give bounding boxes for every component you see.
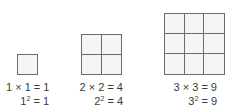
square-label-1: 12 = 1	[6, 95, 49, 108]
square-label-3: 32 = 9	[163, 95, 217, 108]
product-label-1: 1 × 1 = 1	[6, 81, 49, 94]
grid-cell	[165, 14, 185, 34]
grid-cell	[165, 54, 185, 74]
grid-cell	[185, 14, 205, 34]
result: = 9	[198, 95, 217, 107]
grid-cell	[185, 34, 205, 54]
square-3x3	[164, 13, 225, 75]
grid-cell	[204, 14, 224, 34]
grid-cell	[102, 35, 122, 55]
product-label-3: 3 × 3 = 9	[163, 81, 217, 94]
grid-cell	[82, 35, 102, 55]
grid-cell	[165, 34, 185, 54]
grid-cell	[102, 55, 122, 75]
result: = 4	[104, 95, 123, 107]
square-1x1	[17, 54, 38, 75]
grid-cell	[204, 54, 224, 74]
square-label-2: 22 = 4	[77, 95, 123, 108]
result: = 1	[30, 95, 49, 107]
grid-cell	[185, 54, 205, 74]
grid-cell	[82, 55, 102, 75]
grid-cell	[204, 34, 224, 54]
grid-cell	[18, 55, 37, 74]
square-2x2	[81, 34, 122, 75]
product-label-2: 2 × 2 = 4	[77, 81, 123, 94]
